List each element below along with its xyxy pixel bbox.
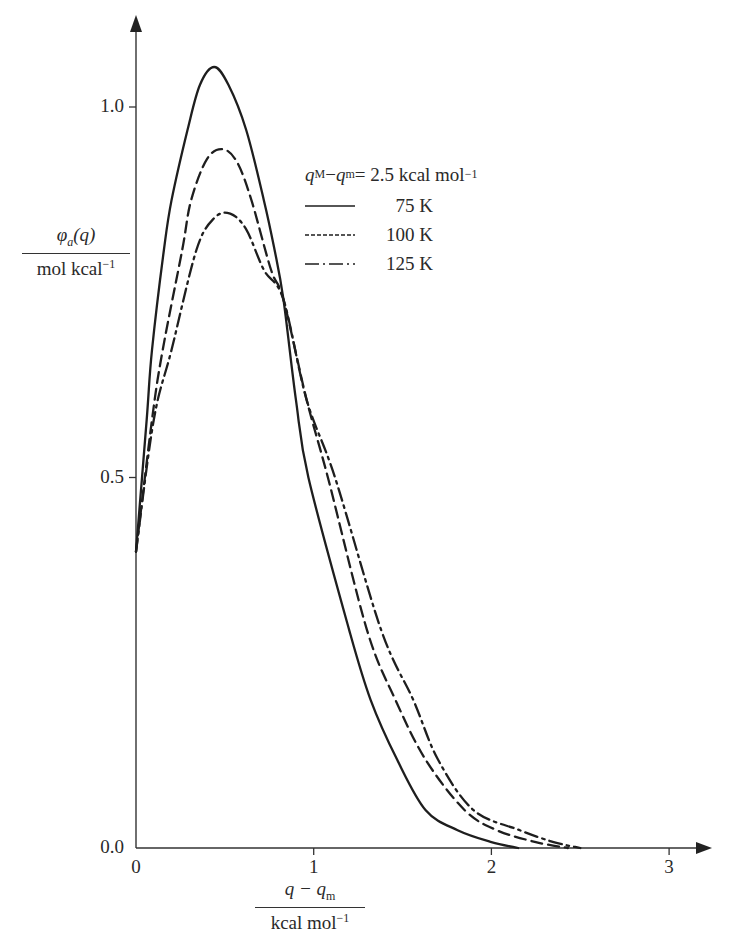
x-tick-label: 3 [654,856,684,878]
y-tick-label: 0.5 [64,466,124,488]
legend-item-125k: 125 K [305,249,477,278]
axes [130,15,712,854]
dashed-line-icon [305,229,355,241]
x-tick-label: 1 [299,856,329,878]
series-line-125k [136,213,580,848]
x-axis-arrow-icon [696,842,712,854]
y-tick-label: 0.0 [64,836,124,858]
dash-dot-line-icon [305,258,355,270]
y-axis-label-denominator: mol kcal−1 [22,254,130,280]
y-axis-label-numerator: φa(q) [22,224,130,254]
legend-title: qM − qm = 2.5 kcal mol−1 [305,160,477,189]
legend: qM − qm = 2.5 kcal mol−1 75 K 100 K 125 … [305,160,477,278]
legend-item-75k: 75 K [305,191,477,220]
y-axis-label: φa(q) mol kcal−1 [22,224,130,280]
x-tick-label: 0 [121,856,151,878]
x-axis-label-denominator: kcal mol−1 [255,908,365,934]
x-axis-label-numerator: q − qm [255,878,365,908]
x-tick-label: 2 [476,856,506,878]
solid-line-icon [305,200,355,212]
x-axis-label: q − qm kcal mol−1 [255,878,365,934]
legend-item-100k: 100 K [305,220,477,249]
y-tick-label: 1.0 [64,95,124,117]
y-axis-arrow-icon [130,15,142,32]
